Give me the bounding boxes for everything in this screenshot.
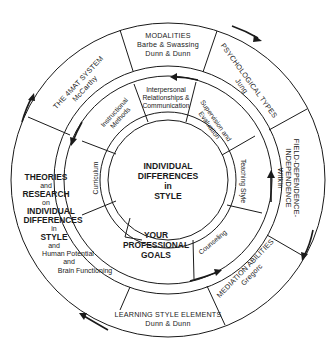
4mat-title: THE 4MAT SYSTEM bbox=[51, 54, 105, 111]
curriculum-label: Curriculum bbox=[92, 161, 99, 194]
divider bbox=[82, 201, 116, 215]
interpersonal-line-1: Interpersonal bbox=[146, 86, 186, 94]
theories-line: and bbox=[63, 258, 75, 265]
lse-author: Dunn & Dunn bbox=[145, 319, 190, 328]
interpersonal-line-2: Relationships & bbox=[142, 94, 190, 102]
center-line-3: in bbox=[164, 181, 172, 191]
wheel-svg: INDIVIDUAL DIFFERENCES in STYLE YOUR PRO… bbox=[0, 0, 336, 351]
goals-line-3: GOALS bbox=[141, 250, 171, 260]
divider bbox=[120, 287, 130, 310]
theories-line: Human Potential bbox=[42, 250, 94, 257]
counseling-label: Counseling bbox=[197, 228, 228, 256]
theories-line: Brain Functioning bbox=[58, 267, 113, 275]
center-line-4: STYLE bbox=[154, 191, 182, 201]
segment-field-dependence: FIELD-DEPENDENCE- INDEPENDENCE Witkin bbox=[276, 139, 301, 218]
divider bbox=[203, 31, 217, 72]
divider bbox=[193, 240, 194, 279]
theories-line: and bbox=[48, 242, 60, 249]
segment-counseling: Counseling bbox=[197, 228, 228, 256]
center-line-2: DIFFERENCES bbox=[138, 171, 199, 181]
arrowhead-icon bbox=[253, 35, 262, 42]
arrowhead-icon bbox=[214, 269, 222, 276]
divider bbox=[227, 205, 262, 213]
professional-goals-label: YOUR PROFESSIONAL GOALS bbox=[123, 230, 189, 260]
psych-types-title: PSYCHOLOGICAL TYPES bbox=[219, 41, 279, 119]
arrow-inner-top bbox=[174, 77, 198, 80]
theories-line: in bbox=[51, 225, 57, 232]
teaching-style-label: Teaching Style bbox=[239, 159, 247, 203]
divider bbox=[120, 30, 133, 71]
center-line-1: INDIVIDUAL bbox=[143, 161, 192, 171]
segment-instructional-methods: Instructional Methods bbox=[99, 96, 135, 134]
segment-4mat-system: THE 4MAT SYSTEM McCarthy bbox=[51, 54, 112, 117]
segment-psychological-types: PSYCHOLOGICAL TYPES Jung bbox=[212, 41, 280, 125]
segment-curriculum: Curriculum bbox=[92, 161, 99, 194]
divider bbox=[28, 117, 70, 135]
segment-interpersonal: Interpersonal Relationships & Communicat… bbox=[142, 86, 190, 109]
arrowhead-icon bbox=[267, 170, 275, 178]
lse-title: LEARNING STYLE ELEMENTS bbox=[115, 310, 222, 319]
segment-modalities: MODALITIES Barbe & Swassing Dunn & Dunn bbox=[137, 31, 199, 58]
arrow-inner-left bbox=[73, 122, 82, 141]
theories-line: on bbox=[42, 199, 50, 206]
theories-line: and bbox=[40, 182, 52, 189]
theories-line: RESEARCH bbox=[23, 189, 70, 199]
interpersonal-line-3: Communication bbox=[142, 102, 189, 109]
segment-mediation-abilities: MEDIATION ABILITIES Gregorc bbox=[215, 237, 282, 306]
goals-line-2: PROFESSIONAL bbox=[123, 240, 189, 250]
modalities-author-1: Barbe & Swassing bbox=[137, 40, 199, 49]
theories-line: THEORIES bbox=[25, 172, 68, 182]
center-label: INDIVIDUAL DIFFERENCES in STYLE bbox=[138, 161, 199, 201]
segment-teaching-style: Teaching Style bbox=[239, 159, 247, 203]
arrowhead-icon bbox=[28, 93, 35, 101]
theories-line: STYLE bbox=[41, 232, 68, 242]
arrowhead-icon bbox=[70, 137, 77, 146]
field-dep-author: Witkin bbox=[276, 168, 285, 189]
arrowhead-icon bbox=[170, 73, 177, 81]
style-wheel-diagram: INDIVIDUAL DIFFERENCES in STYLE YOUR PRO… bbox=[0, 0, 336, 351]
modalities-title: MODALITIES bbox=[145, 31, 191, 40]
segment-learning-style-elements: LEARNING STYLE ELEMENTS Dunn & Dunn bbox=[115, 310, 222, 328]
theories-line: DIFFERENCES bbox=[23, 215, 83, 225]
modalities-author-2: Dunn & Dunn bbox=[145, 49, 190, 58]
goals-line-1: YOUR bbox=[144, 230, 168, 240]
